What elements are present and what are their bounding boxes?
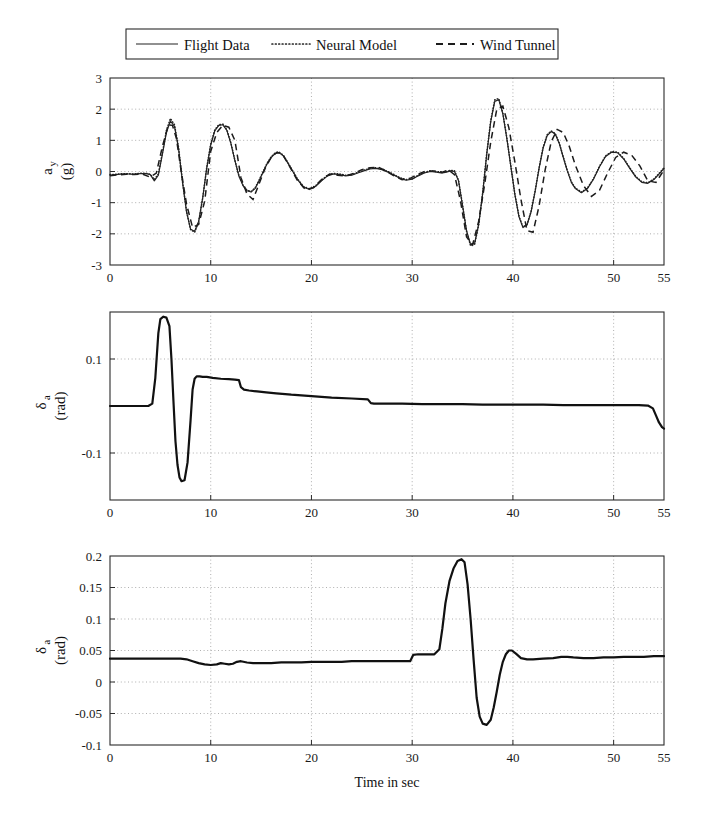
y-axis-label-subscript: a: [41, 395, 52, 400]
figure-root: -3-2-101230102030405055ay(g)-0.10.101020…: [0, 0, 723, 814]
x-tick-label: 55: [658, 750, 671, 765]
x-tick-label: 50: [607, 750, 620, 765]
legend: Flight DataNeural ModelWind Tunnel: [126, 29, 558, 59]
y-axis-label-unit: (rad): [52, 636, 69, 665]
y-tick-label: 0.2: [86, 549, 102, 564]
y-tick-label: -0.1: [81, 738, 102, 753]
y-tick-label: 0.05: [79, 643, 102, 658]
x-axis-label: Time in sec: [355, 775, 420, 790]
y-tick-label: 0.1: [86, 352, 102, 367]
y-tick-label: 1: [96, 133, 103, 148]
series-line-wind-tunnel: [110, 106, 664, 245]
y-tick-label: 0: [96, 675, 103, 690]
y-axis-label-unit: (rad): [52, 391, 69, 420]
y-tick-label: 3: [96, 71, 103, 86]
x-tick-label: 40: [506, 750, 519, 765]
y-axis-label: δa(rad): [33, 636, 69, 665]
legend-label: Wind Tunnel: [480, 37, 556, 53]
y-tick-label: 0.1: [86, 612, 102, 627]
y-tick-label: -1: [91, 195, 102, 210]
x-tick-label: 55: [658, 270, 671, 285]
legend-label: Flight Data: [184, 37, 250, 53]
y-tick-label: 0.15: [79, 580, 102, 595]
x-tick-label: 0: [107, 750, 114, 765]
y-tick-label: -2: [91, 226, 102, 241]
x-tick-label: 10: [204, 750, 217, 765]
y-tick-label: 2: [96, 102, 103, 117]
x-tick-label: 0: [107, 505, 114, 520]
x-tick-label: 50: [607, 505, 620, 520]
x-tick-label: 40: [506, 270, 519, 285]
y-axis-label-subscript: a: [41, 640, 52, 645]
panel-delta-a-2: -0.1-0.0500.050.10.150.20102030405055δa(…: [33, 549, 671, 766]
y-axis-label-symbol: δ: [33, 402, 49, 409]
x-tick-label: 20: [305, 505, 318, 520]
y-axis-label: δa(rad): [33, 391, 69, 420]
y-axis-label: ay(g): [39, 161, 75, 181]
x-tick-label: 10: [204, 270, 217, 285]
panel-ay: -3-2-101230102030405055ay(g): [39, 71, 671, 286]
y-tick-label: -0.1: [81, 446, 102, 461]
y-axis-label-unit: (g): [58, 163, 75, 181]
three-panel-time-series-figure: -3-2-101230102030405055ay(g)-0.10.101020…: [0, 0, 723, 814]
x-tick-label: 30: [406, 505, 419, 520]
y-axis-label-symbol: a: [39, 168, 55, 175]
x-tick-label: 30: [406, 750, 419, 765]
panel-delta-a-1: -0.10.10102030405055δa(rad): [33, 312, 671, 520]
y-tick-label: -0.05: [75, 706, 102, 721]
x-tick-label: 30: [406, 270, 419, 285]
y-tick-label: 0: [96, 164, 103, 179]
x-tick-label: 55: [658, 505, 671, 520]
x-tick-label: 20: [305, 270, 318, 285]
x-tick-label: 40: [506, 505, 519, 520]
y-axis-label-symbol: δ: [33, 647, 49, 654]
series-line-flight-data: [110, 100, 664, 245]
legend-label: Neural Model: [316, 37, 397, 53]
x-tick-label: 0: [107, 270, 114, 285]
x-tick-label: 20: [305, 750, 318, 765]
y-axis-label-subscript: y: [47, 161, 58, 167]
series-line-delta-a: [110, 317, 664, 482]
x-tick-label: 50: [607, 270, 620, 285]
y-tick-label: -3: [91, 258, 102, 273]
series-line-delta-a: [110, 559, 664, 725]
x-tick-label: 10: [204, 505, 217, 520]
